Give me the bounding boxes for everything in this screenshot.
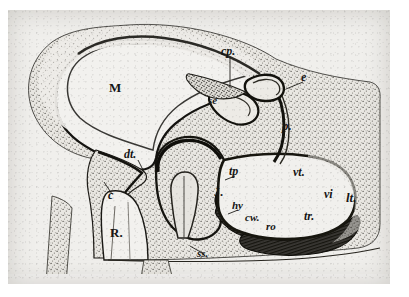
label-ro: ro <box>266 221 276 232</box>
label-c: c <box>108 189 113 201</box>
label-p: p. <box>282 119 292 132</box>
label-lt: lt. <box>346 191 356 204</box>
anatomical-figure: M cp. e se p. dt. c R. tp J. hy cw. ro s… <box>8 10 390 284</box>
label-ss: ss. <box>197 248 208 259</box>
label-vt: vt. <box>293 166 305 178</box>
label-J: J. <box>214 186 223 198</box>
label-R: R. <box>110 226 123 239</box>
label-se: se <box>208 95 217 106</box>
label-cw: cw. <box>245 212 260 223</box>
label-M: M <box>109 81 121 94</box>
label-e: e <box>301 71 306 83</box>
illustration-plate: M cp. e se p. dt. c R. tp J. hy cw. ro s… <box>0 0 409 297</box>
bottom-paper-margin <box>8 274 390 284</box>
label-hy: hy <box>232 200 243 211</box>
label-tp: tp <box>229 165 238 177</box>
label-cp: cp. <box>221 45 235 57</box>
label-vi: vi <box>324 188 333 200</box>
section-drawing <box>8 10 390 284</box>
label-tr: tr. <box>304 210 314 222</box>
label-dt: dt. <box>124 148 136 160</box>
